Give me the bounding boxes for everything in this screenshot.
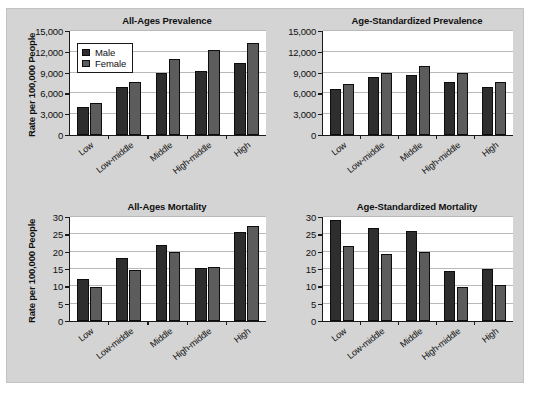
x-tick-mark bbox=[474, 321, 475, 325]
x-tick-mark bbox=[147, 135, 148, 139]
y-tick-label: 15 bbox=[53, 264, 63, 275]
y-tick-mark bbox=[318, 114, 322, 115]
bar-male-middle bbox=[406, 231, 417, 321]
y-tick-label: 3,000 bbox=[293, 109, 316, 120]
x-tick-mark bbox=[187, 321, 188, 325]
x-tick-mark bbox=[226, 321, 227, 325]
bar-male-low bbox=[330, 220, 341, 321]
bar-female-low-middle bbox=[129, 82, 141, 135]
y-tick-mark bbox=[65, 93, 69, 94]
bar-female-high bbox=[247, 226, 259, 321]
y-tick-mark bbox=[65, 135, 69, 136]
y-tick-mark bbox=[318, 93, 322, 94]
y-tick-label: 15 bbox=[306, 264, 316, 275]
chart-title: All-Ages Mortality bbox=[69, 201, 265, 212]
y-tick-label: 3,000 bbox=[40, 109, 63, 120]
bar-male-low-middle bbox=[368, 77, 379, 135]
y-tick-label: 5 bbox=[58, 298, 63, 309]
x-tick-mark bbox=[360, 135, 361, 139]
y-axis-label: Rate per 100,000 People bbox=[26, 219, 37, 323]
legend-swatch-icon bbox=[82, 60, 90, 67]
y-tick-mark bbox=[65, 217, 69, 218]
gridline bbox=[70, 30, 266, 31]
y-tick-mark bbox=[65, 321, 69, 322]
x-tick-mark bbox=[436, 321, 437, 325]
bar-male-high-middle bbox=[444, 271, 455, 321]
plot-area bbox=[322, 217, 513, 322]
y-tick-label: 12,000 bbox=[288, 46, 316, 57]
bar-female-middle bbox=[169, 59, 181, 135]
y-tick-label: 0 bbox=[311, 316, 316, 327]
x-tick-mark bbox=[398, 135, 399, 139]
y-tick-label: 20 bbox=[306, 246, 316, 257]
y-tick-label: 0 bbox=[58, 316, 63, 327]
y-tick-label: 15,000 bbox=[288, 26, 316, 37]
y-tick-mark bbox=[318, 252, 322, 253]
bar-male-high bbox=[482, 269, 493, 321]
legend-swatch-icon bbox=[82, 49, 90, 56]
bar-female-low-middle bbox=[381, 254, 392, 321]
y-tick-label: 0 bbox=[311, 130, 316, 141]
legend-item-female: Female bbox=[82, 58, 126, 69]
y-tick-label: 6,000 bbox=[293, 88, 316, 99]
y-tick-mark bbox=[65, 269, 69, 270]
chart-title: Age-Standardized Prevalence bbox=[322, 15, 512, 26]
y-tick-label: 20 bbox=[53, 246, 63, 257]
gridline bbox=[70, 216, 266, 217]
y-tick-mark bbox=[318, 52, 322, 53]
bar-male-high-middle bbox=[195, 71, 207, 135]
y-tick-label: 12,000 bbox=[35, 46, 63, 57]
figure-panel: All-Ages PrevalenceRate per 100,000 Peop… bbox=[6, 8, 524, 383]
y-tick-mark bbox=[318, 234, 322, 235]
bar-female-low-middle bbox=[381, 73, 392, 135]
gridline bbox=[323, 233, 513, 234]
y-tick-label: 30 bbox=[53, 212, 63, 223]
y-tick-mark bbox=[65, 52, 69, 53]
y-tick-label: 6,000 bbox=[40, 88, 63, 99]
y-tick-mark bbox=[65, 234, 69, 235]
y-tick-label: 9,000 bbox=[40, 67, 63, 78]
bar-male-middle bbox=[406, 75, 417, 135]
bar-male-low-middle bbox=[116, 258, 128, 321]
bar-male-high-middle bbox=[195, 268, 207, 321]
y-tick-label: 25 bbox=[53, 229, 63, 240]
x-tick-mark bbox=[360, 321, 361, 325]
bar-male-low-middle bbox=[116, 87, 128, 135]
chart-title: Age-Standardized Mortality bbox=[322, 201, 512, 212]
y-tick-mark bbox=[65, 73, 69, 74]
chart-title: All-Ages Prevalence bbox=[69, 15, 265, 26]
bar-male-low bbox=[77, 279, 89, 321]
bar-male-middle bbox=[156, 245, 168, 321]
y-tick-label: 15,000 bbox=[35, 26, 63, 37]
y-tick-mark bbox=[318, 135, 322, 136]
y-tick-label: 10 bbox=[306, 281, 316, 292]
y-tick-label: 9,000 bbox=[293, 67, 316, 78]
y-tick-label: 25 bbox=[306, 229, 316, 240]
x-tick-mark bbox=[147, 321, 148, 325]
bar-female-low-middle bbox=[129, 270, 141, 321]
y-tick-mark bbox=[318, 304, 322, 305]
bar-male-middle bbox=[156, 73, 168, 135]
bar-male-high-middle bbox=[444, 82, 455, 135]
bar-female-low bbox=[343, 246, 354, 321]
y-tick-mark bbox=[318, 217, 322, 218]
bar-female-low bbox=[90, 103, 102, 135]
legend-label: Female bbox=[95, 58, 126, 69]
y-tick-mark bbox=[318, 321, 322, 322]
x-tick-mark bbox=[436, 135, 437, 139]
x-tick-mark bbox=[108, 135, 109, 139]
y-tick-mark bbox=[318, 286, 322, 287]
bar-female-low bbox=[343, 84, 354, 135]
bar-female-high bbox=[495, 82, 506, 135]
chart-panel-all-ages-prevalence: All-Ages PrevalenceRate per 100,000 Peop… bbox=[15, 13, 270, 199]
chart-panel-age-standardized-prevalence: Age-Standardized Prevalence03,0006,0009,… bbox=[270, 13, 520, 199]
chart-legend: MaleFemale bbox=[77, 43, 133, 73]
y-tick-mark bbox=[318, 73, 322, 74]
bar-male-high bbox=[234, 63, 246, 135]
x-tick-mark bbox=[187, 135, 188, 139]
bar-male-low bbox=[330, 89, 341, 135]
y-tick-mark bbox=[318, 31, 322, 32]
x-tick-mark bbox=[226, 135, 227, 139]
y-tick-mark bbox=[65, 304, 69, 305]
bar-female-high-middle bbox=[208, 50, 220, 135]
